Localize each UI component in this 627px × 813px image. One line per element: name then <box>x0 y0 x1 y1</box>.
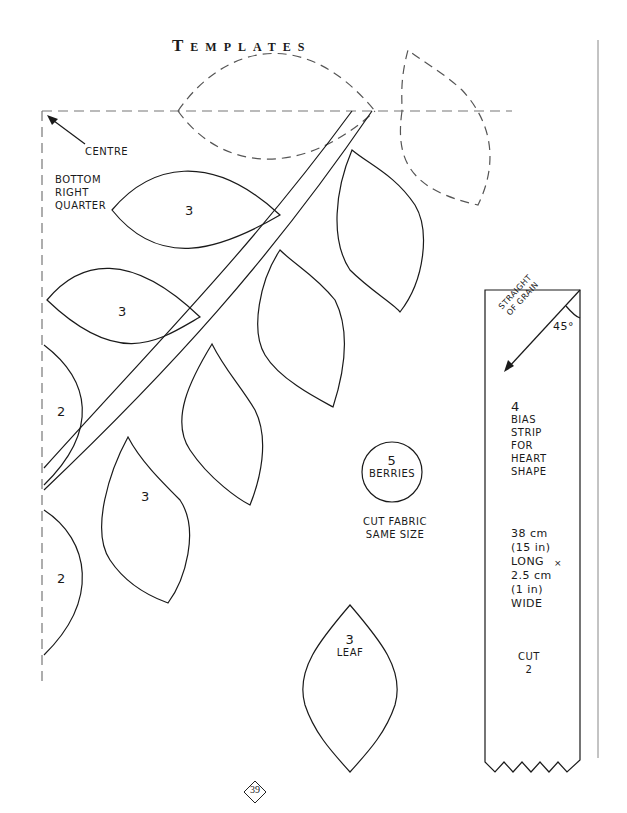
size-line: LONG <box>511 555 552 569</box>
leaf-stem-top <box>337 150 423 312</box>
berries-label: 5 BERRIES <box>365 454 419 480</box>
centre-arrow <box>50 118 85 144</box>
berries-number: 5 <box>365 454 419 467</box>
leaf-lower-left <box>102 437 190 603</box>
bias-strip-description: 4 BIAS STRIP FOR HEART SHAPE <box>511 400 547 478</box>
leaf-template-label: 3 LEAF <box>326 633 374 659</box>
quarter-line-1: BOTTOM <box>55 173 106 186</box>
quarter-line-3: QUARTER <box>55 199 106 212</box>
cut-text: CUT <box>515 650 543 663</box>
quarter-line-2: RIGHT <box>55 186 106 199</box>
page-number-text: 39 <box>243 784 267 795</box>
piece-number: 2 <box>57 572 66 585</box>
leaf-stem-middle <box>182 344 263 505</box>
leaf-template-number: 3 <box>326 633 374 646</box>
stem-edge <box>44 111 352 468</box>
size-line: WIDE <box>511 597 552 611</box>
size-line: (15 in) <box>511 541 552 555</box>
leaf-upper-left <box>112 171 280 248</box>
berries-note-line: SAME SIZE <box>360 528 430 541</box>
cut-label: CUT 2 <box>515 650 543 676</box>
page-number: 39 <box>243 780 267 804</box>
leaf-template <box>303 605 397 772</box>
leaf-template-text: LEAF <box>326 646 374 659</box>
berries-note: CUT FABRIC SAME SIZE <box>360 515 430 541</box>
size-line: 2.5 cm <box>511 569 552 583</box>
description-line: SHAPE <box>511 465 547 478</box>
angle-arc <box>566 306 580 318</box>
dashed-leaf-right <box>400 50 490 205</box>
template-page: Templates <box>0 0 627 813</box>
leaf-stem-upper <box>258 250 345 407</box>
quarter-label: BOTTOM RIGHT QUARTER <box>55 173 106 212</box>
berries-note-line: CUT FABRIC <box>360 515 430 528</box>
bias-strip-size: 38 cm (15 in) LONG 2.5 cm (1 in) WIDE <box>511 527 552 611</box>
centre-label: CENTRE <box>85 145 128 158</box>
cut-count: 2 <box>515 663 543 676</box>
piece-number: 3 <box>141 490 150 503</box>
piece-number: 3 <box>118 305 127 318</box>
size-line: 38 cm <box>511 527 552 541</box>
angle-label: 45° <box>553 320 574 333</box>
piece-number: 3 <box>185 204 194 217</box>
dashed-leaf-top <box>178 53 375 111</box>
description-line: BIAS <box>511 413 547 426</box>
description-line: HEART <box>511 452 547 465</box>
times-mark: × <box>554 557 562 570</box>
piece-number: 2 <box>57 405 66 418</box>
size-line: (1 in) <box>511 583 552 597</box>
description-line: STRIP <box>511 426 547 439</box>
centre-guides <box>42 111 512 685</box>
description-line: FOR <box>511 439 547 452</box>
berries-text: BERRIES <box>365 467 419 480</box>
bias-strip-number: 4 <box>511 400 547 413</box>
